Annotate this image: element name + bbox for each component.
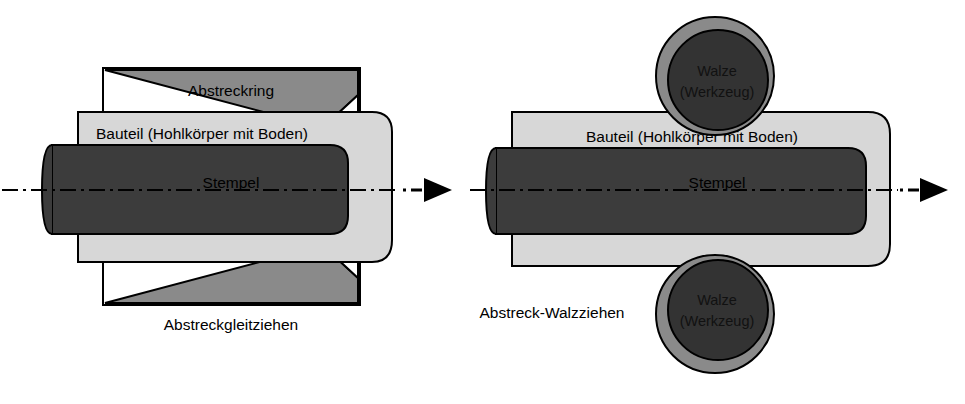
left-process-caption: Abstreckgleitziehen [164,316,298,333]
left-punch-label: Stempel [203,174,260,191]
right-workpiece-label: Bauteil (Hohlkörper mit Boden) [586,128,798,145]
right-arrow [900,178,948,202]
right-process-group: Walze (Werkzeug) Walze (Werkzeug) Bautei… [470,17,898,373]
lower-roller-label-line1: Walze [697,292,737,308]
middle-arrow [403,178,452,202]
upper-roller-core [668,30,768,130]
left-die-label: Abstreckring [188,82,274,99]
upper-roller-label-line1: Walze [697,63,737,79]
arrow-right-icon [424,178,452,202]
right-punch-label: Stempel [689,174,746,191]
lower-roller-label-line2: (Werkzeug) [680,313,755,329]
right-process-caption: Abstreck-Walzziehen [479,304,624,321]
left-process-group: Abstreckring Bauteil (Hohlkörper mit Bod… [2,68,400,333]
forming-process-diagram: Abstreckring Bauteil (Hohlkörper mit Bod… [0,0,965,404]
upper-roller-label-line2: (Werkzeug) [680,84,755,100]
left-workpiece-label: Bauteil (Hohlkörper mit Boden) [96,125,308,142]
diagram-canvas: Abstreckring Bauteil (Hohlkörper mit Bod… [0,0,965,404]
lower-roller-core [668,260,768,360]
arrow-right-icon [920,178,948,202]
